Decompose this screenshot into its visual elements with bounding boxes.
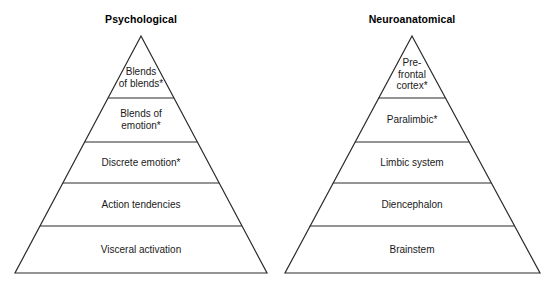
pyramid-title-psychological: Psychological	[105, 13, 177, 25]
two-pyramid-diagram: Psychological Neuroanatomical Blends of …	[0, 0, 555, 291]
pyramid-outline-psychological	[15, 36, 267, 273]
pyramid-outline-neuroanatomical	[285, 36, 540, 273]
pyramid-neuroanatomical	[285, 36, 540, 273]
pyramid-psychological	[15, 36, 267, 273]
pyramid-outlines-svg	[0, 0, 555, 291]
pyramid-title-neuroanatomical: Neuroanatomical	[369, 13, 456, 25]
